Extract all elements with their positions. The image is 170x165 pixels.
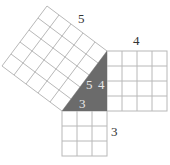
horizontal-leg-square-label: 3 [111, 124, 118, 139]
vertical-leg-square [107, 51, 167, 111]
horizontal-leg-square [62, 111, 107, 156]
pythagorean-diagram: 5 4 3 5 4 3 [0, 0, 170, 165]
triangle-vertical-leg-label: 4 [98, 77, 105, 92]
triangle-hypotenuse-label: 5 [86, 77, 93, 92]
hypotenuse-square-label: 5 [78, 11, 85, 26]
vertical-leg-square-label: 4 [133, 33, 140, 48]
triangle-horizontal-leg-label: 3 [79, 96, 86, 111]
